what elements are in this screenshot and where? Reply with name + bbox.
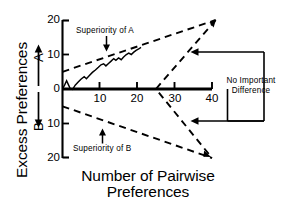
y-axis-title: Excess Preferences	[14, 42, 30, 178]
x-axis	[62, 82, 212, 89]
x-axis-title-line2: Preferences	[58, 184, 238, 200]
y-tick-label-10-below: 10	[38, 117, 60, 129]
y-tick-label-20-below: 20	[38, 151, 60, 163]
chart-figure: Excess Preferences A B 20 10 0 10 20 10 …	[0, 0, 290, 203]
annotation-no-important-difference-line1: No Important	[215, 77, 287, 86]
x-axis-title-line1: Number of Pairwise	[58, 168, 238, 184]
arrow-superiority-b	[99, 129, 106, 144]
arrow-superiority-a	[103, 36, 110, 52]
x-tick-label-30: 30	[163, 92, 187, 104]
x-tick-label-20: 20	[125, 92, 149, 104]
x-tick-label-10: 10	[88, 92, 112, 104]
annotation-superiority-a: Superiority of A	[76, 27, 134, 36]
leader-arrowhead-bottom	[191, 117, 199, 124]
y-tick-label-20-above: 20	[38, 13, 60, 25]
leader-arrowhead-top	[191, 48, 199, 55]
annotation-no-important-difference-line2: Difference	[215, 87, 287, 96]
y-tick-label-0: 0	[44, 82, 60, 94]
annotation-superiority-b: Superiority of B	[73, 145, 131, 154]
y-tick-label-10-above: 10	[38, 48, 60, 60]
